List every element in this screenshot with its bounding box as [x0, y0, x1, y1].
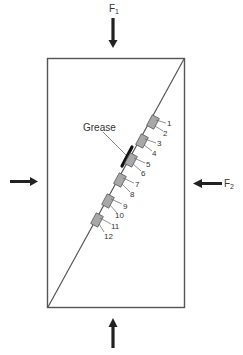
force-label-f1: F1 [109, 3, 119, 15]
gauge-label-11: 11 [111, 222, 120, 231]
gauge-label-7: 7 [135, 180, 140, 189]
gauge-1-2 [147, 115, 160, 129]
gauge-3-4 [136, 134, 149, 148]
gauge-label-5: 5 [146, 160, 151, 169]
gauge-leaders [99, 120, 166, 232]
grease-leader-line [103, 132, 126, 155]
force-arrow-left [10, 177, 38, 186]
gauge-label-8: 8 [130, 190, 135, 199]
gauge-label-6: 6 [141, 169, 146, 178]
force-arrow-top [109, 18, 118, 48]
force-label-f2: F2 [224, 178, 234, 190]
gauge-label-9: 9 [123, 202, 128, 211]
gauge-label-12: 12 [104, 232, 113, 241]
specimen-diagram: Grease F1 F2 [0, 0, 243, 355]
force-arrow-right [193, 179, 222, 188]
gauge-label-4: 4 [152, 149, 157, 158]
gauge-label-3: 3 [157, 139, 162, 148]
gauge-label-1: 1 [167, 119, 172, 128]
grease-label: Grease [83, 122, 116, 133]
force-arrow-bottom [109, 318, 118, 348]
gauge-label-2: 2 [163, 129, 168, 138]
gauge-label-10: 10 [115, 211, 124, 220]
